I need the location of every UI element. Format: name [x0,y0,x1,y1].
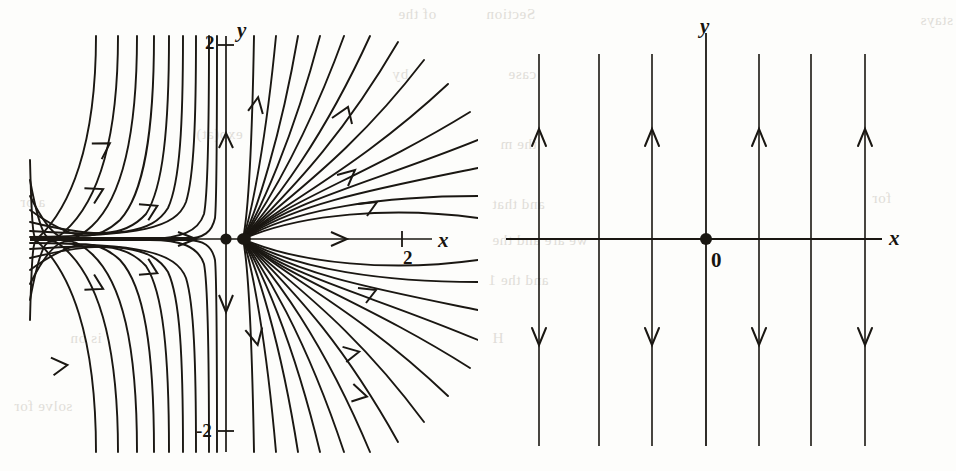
left-trajectories-upper-left [30,36,196,239]
left-x-tick-label-2: 2 [403,247,413,269]
left-x-axis-label: x [438,228,449,253]
left-y-tick-label-2: 2 [205,32,215,54]
left-near-axis-up-arrowhead [248,96,265,114]
left-trajectories-node-fan-upper-right [243,36,478,239]
right-direction-field-svg [478,0,956,471]
right-down-arrowheads [532,328,872,345]
right-direction-field-panel: x y 0 [478,0,956,471]
left-y-tick-label-minus-2: -2 [196,420,212,442]
left-equilibrium-point [220,233,231,244]
left-trajectories-node-fan-lower-right [243,239,478,452]
left-arrowheads-upper-left [84,138,159,221]
left-trajectories-lower-left [30,241,196,452]
left-y-axis-label: y [237,18,246,43]
right-vertical-flow-lines [539,54,865,446]
left-node-convergence-blob [237,233,251,245]
left-phase-portrait-svg [0,0,478,471]
right-x-axis-label: x [889,226,900,251]
right-origin-label: 0 [711,248,722,273]
left-phase-portrait-panel: x y 2 -2 2 [0,0,478,471]
figure-page: of thebya pris onsolve forexp(at)Section… [0,0,956,471]
right-y-axis-label: y [700,14,709,39]
right-up-arrowheads [532,129,872,146]
left-arrowheads-lower-right [337,288,376,407]
right-origin-point [700,233,712,245]
